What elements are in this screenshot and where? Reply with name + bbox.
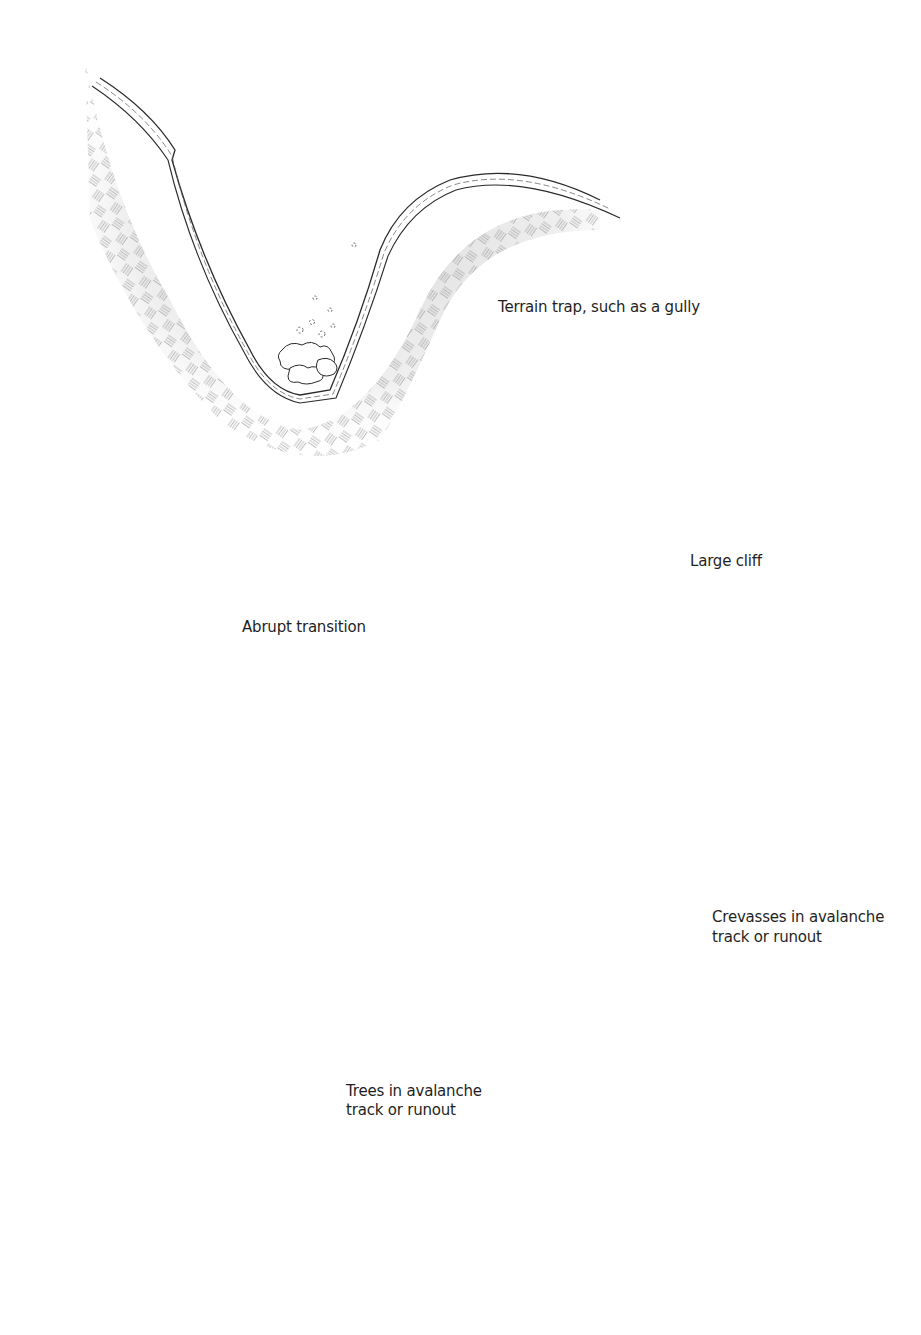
trees-label-line1: Trees in avalanche [346, 1082, 482, 1101]
avalanche-terrain-trap-diagram [0, 0, 921, 1335]
crevasses-label-line1: Crevasses in avalanche [712, 908, 884, 927]
abrupt-transition-label: Abrupt transition [242, 618, 366, 637]
trees-label-line2: track or runout [346, 1101, 456, 1120]
large-cliff-label: Large cliff [690, 552, 762, 571]
gully-label: Terrain trap, such as a gully [498, 298, 700, 317]
gully-illustration [85, 60, 620, 456]
crevasses-label-line2: track or runout [712, 928, 822, 947]
